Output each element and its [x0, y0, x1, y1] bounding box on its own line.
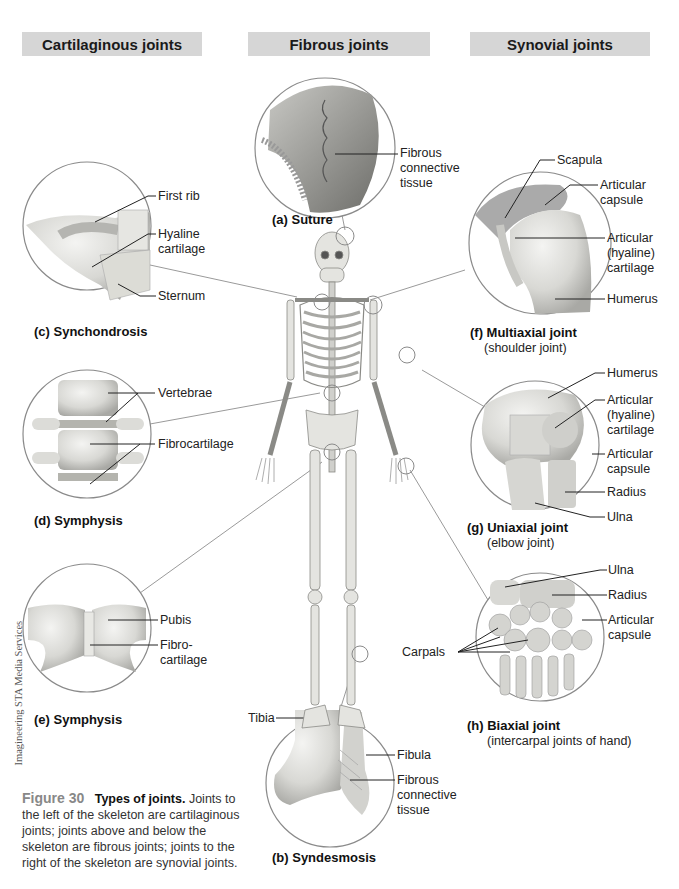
label-humerus-f: Humerus: [607, 292, 658, 307]
label-humerus-g: Humerus: [607, 366, 658, 381]
label-scapula: Scapula: [557, 153, 602, 168]
label-fibrous-connective-tissue-b: Fibrous connective tissue: [397, 773, 457, 818]
image-credit: Imagineering STA Media Services: [13, 626, 24, 766]
label-line: Articular: [607, 393, 655, 408]
symphysis-vertebrae-inset: [23, 370, 155, 498]
wrist-inset: [458, 570, 607, 701]
label-line: tissue: [400, 176, 460, 191]
label-line: cartilage: [607, 423, 655, 438]
label-ulna-g: Ulna: [607, 510, 633, 525]
label-fibula: Fibula: [397, 748, 431, 763]
synchondrosis-inset: [23, 162, 156, 300]
caption-syndesmosis: (b) Syndesmosis: [272, 850, 376, 865]
figure-title: Types of joints.: [95, 792, 186, 806]
figure-caption: Figure 30 Types of joints. Joints to the…: [22, 790, 247, 871]
label-articular-hyaline-cartilage-f: Articular (hyaline) cartilage: [607, 231, 655, 276]
symphysis-pubis-inset: [23, 564, 158, 692]
caption-symphysis-d: (d) Symphysis: [34, 513, 123, 528]
caption-synchondrosis: (c) Synchondrosis: [34, 324, 147, 339]
label-line: Articular: [607, 447, 653, 462]
subcaption-intercarpal-joints: (intercarpal joints of hand): [487, 734, 632, 748]
label-line: (hyaline): [607, 246, 655, 261]
label-ulna-h: Ulna: [608, 563, 634, 578]
subcaption-elbow-joint: (elbow joint): [487, 536, 554, 550]
label-line: cartilage: [158, 242, 205, 257]
label-line: cartilage: [607, 261, 655, 276]
ankle-inset: [266, 710, 395, 847]
label-articular-capsule-f: Articular capsule: [600, 178, 646, 208]
label-line: Articular: [600, 178, 646, 193]
label-fibrous-connective-tissue-a: Fibrous connective tissue: [400, 146, 460, 191]
caption-symphysis-e: (e) Symphysis: [34, 712, 122, 727]
label-line: capsule: [608, 628, 654, 643]
caption-multiaxial-joint: (f) Multiaxial joint: [470, 325, 577, 340]
label-line: Articular: [607, 231, 655, 246]
label-line: cartilage: [160, 653, 207, 668]
label-line: Articular: [608, 613, 654, 628]
label-tibia: Tibia: [248, 711, 275, 726]
shoulder-inset: [469, 160, 611, 314]
caption-uniaxial-joint: (g) Uniaxial joint: [467, 520, 568, 535]
label-vertebrae: Vertebrae: [158, 386, 212, 401]
label-radius-h: Radius: [608, 588, 647, 603]
label-line: Fibro-: [160, 638, 207, 653]
label-carpals: Carpals: [402, 645, 445, 660]
label-fibrocartilage: Fibrocartilage: [158, 437, 234, 452]
label-line: Fibrous: [397, 773, 457, 788]
figure-number: Figure 30: [22, 790, 84, 806]
subcaption-shoulder-joint: (shoulder joint): [484, 341, 567, 355]
label-articular-capsule-h: Articular capsule: [608, 613, 654, 643]
label-line: Fibrous: [400, 146, 460, 161]
label-hyaline-cartilage: Hyaline cartilage: [158, 227, 205, 257]
label-line: (hyaline): [607, 408, 655, 423]
elbow-inset: [471, 373, 605, 517]
label-pubis: Pubis: [160, 613, 191, 628]
skeleton: [256, 232, 408, 728]
label-line: tissue: [397, 803, 457, 818]
label-fibro-cartilage: Fibro- cartilage: [160, 638, 207, 668]
label-line: connective: [400, 161, 460, 176]
joints-illustration: [0, 0, 679, 889]
label-first-rib: First rib: [158, 189, 200, 204]
caption-biaxial-joint: (h) Biaxial joint: [467, 718, 560, 733]
label-line: connective: [397, 788, 457, 803]
label-line: Hyaline: [158, 227, 205, 242]
label-radius-g: Radius: [607, 485, 646, 500]
label-articular-capsule-g: Articular capsule: [607, 447, 653, 477]
label-line: capsule: [600, 193, 646, 208]
label-line: capsule: [607, 462, 653, 477]
label-sternum: Sternum: [158, 289, 205, 304]
suture-inset: [255, 78, 398, 218]
label-articular-hyaline-cartilage-g: Articular (hyaline) cartilage: [607, 393, 655, 438]
caption-suture: (a) Suture: [272, 212, 333, 227]
